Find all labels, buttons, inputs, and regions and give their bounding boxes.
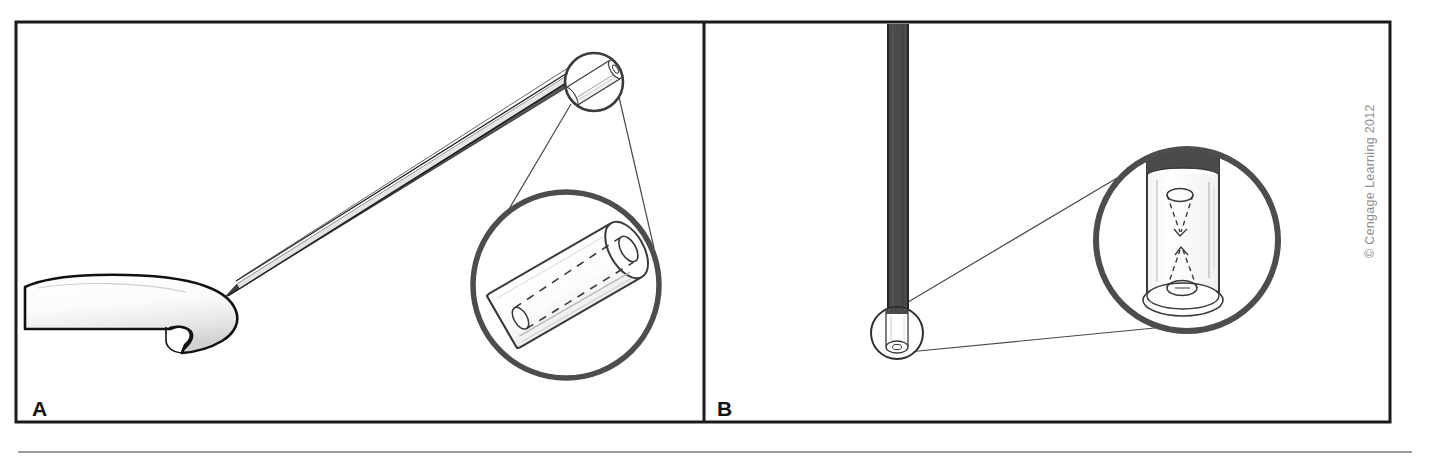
figure-root: A B © Cengage Learning 2012 xyxy=(0,0,1454,467)
panel-label-a: A xyxy=(32,398,47,419)
vertical-rod xyxy=(888,24,908,318)
copyright-credit: © Cengage Learning 2012 xyxy=(1363,98,1377,258)
panel-label-b: B xyxy=(717,398,732,419)
